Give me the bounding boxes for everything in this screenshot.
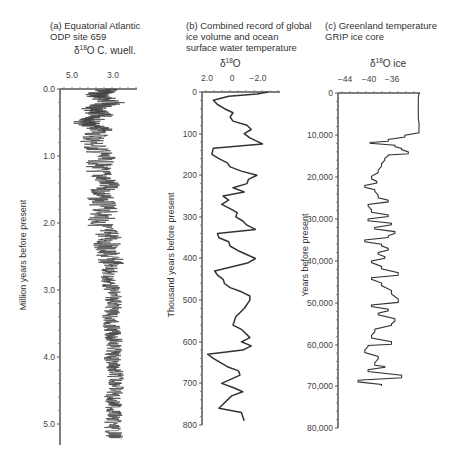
- y-tick-label: 300: [183, 212, 197, 222]
- chart-canvas: 0.01.02.03.04.05.05.03.00100200300400500…: [0, 0, 454, 463]
- y-tick-label: 70,000: [307, 381, 333, 391]
- data-line: [358, 93, 419, 386]
- y-tick-label: 40,000: [307, 256, 333, 266]
- y-tick-label: 0.0: [43, 84, 55, 94]
- panel-a-plot: 0.01.02.03.04.05.05.03.0: [43, 70, 137, 445]
- y-tick-label: 60,000: [307, 340, 333, 350]
- y-tick-label: 100: [183, 129, 197, 139]
- x-tick-label: 3.0: [107, 70, 119, 80]
- y-tick-label: 10,000: [307, 130, 333, 140]
- y-tick-label: 30,000: [307, 214, 333, 224]
- y-tick-label: 2.0: [43, 218, 55, 228]
- x-tick-label: −2.0: [250, 73, 267, 83]
- x-tick-label: −40: [362, 74, 377, 84]
- y-tick-label: 400: [183, 253, 197, 263]
- data-line: [74, 89, 125, 438]
- y-tick-label: 1.0: [43, 151, 55, 161]
- y-tick-label: 50,000: [307, 298, 333, 308]
- y-tick-label: 700: [183, 378, 197, 388]
- y-tick-label: 600: [183, 337, 197, 347]
- y-tick-label: 80,000: [307, 423, 333, 433]
- y-tick-label: 0: [192, 87, 197, 97]
- y-tick-label: 500: [183, 295, 197, 305]
- y-tick-label: 4.0: [43, 352, 55, 362]
- x-tick-label: −36: [385, 74, 400, 84]
- y-tick-label: 200: [183, 170, 197, 180]
- x-tick-label: 0: [230, 73, 235, 83]
- data-line: [208, 92, 269, 421]
- panel-b-plot: 01002003004005006007008002.00−2.0: [183, 73, 280, 430]
- y-tick-label: 5.0: [43, 419, 55, 429]
- panel-c-plot: 010,00020,00030,00040,00050,00060,00070,…: [307, 74, 420, 433]
- x-tick-label: 2.0: [201, 73, 213, 83]
- y-tick-label: 3.0: [43, 285, 55, 295]
- x-tick-label: 5.0: [66, 70, 78, 80]
- y-tick-label: 800: [183, 420, 197, 430]
- y-tick-label: 0: [328, 88, 333, 98]
- x-tick-label: −44: [338, 74, 353, 84]
- y-tick-label: 20,000: [307, 172, 333, 182]
